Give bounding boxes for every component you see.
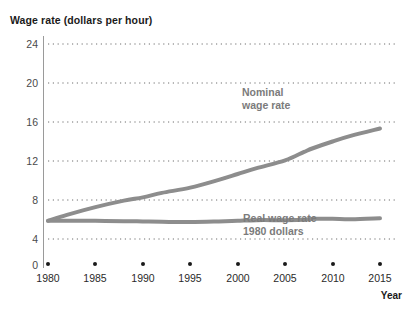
nominal-series-annotation: Nominal wage rate	[242, 86, 290, 112]
xtick-label-2010: 2010	[310, 272, 356, 284]
xtick-label-2005: 2005	[262, 272, 308, 284]
ytick-label-12: 12	[14, 155, 38, 167]
xtick-label-2015: 2015	[357, 272, 403, 284]
ytick-label-16: 16	[14, 116, 38, 128]
xtick-dot-1985	[93, 262, 97, 266]
nominal-series-annotation-line1: Nominal	[242, 86, 290, 99]
nominal-series-annotation-line2: wage rate	[242, 99, 290, 112]
x-axis-label: Year	[381, 290, 402, 301]
xtick-label-1990: 1990	[120, 272, 166, 284]
xtick-label-1985: 1985	[72, 272, 118, 284]
ytick-label-20: 20	[14, 77, 38, 89]
gridlines	[48, 44, 396, 239]
xtick-dot-1980	[46, 262, 50, 266]
xtick-label-1980: 1980	[25, 272, 71, 284]
plot-area	[0, 0, 414, 310]
wage-rate-line-chart: Wage rate (dollars per hour) 24 20 16 12…	[0, 0, 414, 310]
real-series-annotation: Real wage rate 1980 dollars	[243, 212, 317, 238]
xtick-dot-2005	[283, 262, 287, 266]
xtick-dot-1995	[188, 262, 192, 266]
real-series-annotation-line1: Real wage rate	[243, 212, 317, 225]
ytick-label-24: 24	[14, 38, 38, 50]
ytick-label-0: 0	[14, 259, 38, 271]
real-wage-line	[48, 218, 380, 222]
xtick-label-2000: 2000	[215, 272, 261, 284]
ytick-label-8: 8	[14, 194, 38, 206]
xtick-dot-2015	[378, 262, 382, 266]
xtick-label-1995: 1995	[167, 272, 213, 284]
xtick-dot-2000	[236, 262, 240, 266]
xtick-dot-2010	[331, 262, 335, 266]
real-series-annotation-line2: 1980 dollars	[243, 225, 317, 238]
ytick-label-4: 4	[14, 233, 38, 245]
xtick-dot-1990	[141, 262, 145, 266]
vertical-axis-line	[43, 36, 44, 268]
nominal-wage-line	[48, 129, 380, 221]
